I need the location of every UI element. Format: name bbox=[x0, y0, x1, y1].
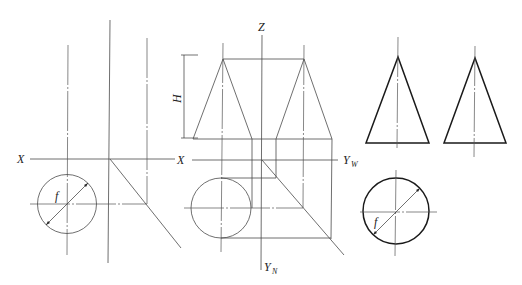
right-result: f bbox=[360, 37, 506, 257]
side-centerline bbox=[303, 45, 304, 208]
label-f-right: f bbox=[374, 215, 379, 229]
projection-line-side-right bbox=[331, 139, 332, 239]
middle-three-view: H Z X Y W Y N bbox=[170, 20, 359, 276]
label-x-middle: X bbox=[176, 153, 185, 167]
front-result-centerline bbox=[397, 37, 398, 148]
label-yn-sub: N bbox=[271, 267, 278, 276]
side-result-centerline bbox=[474, 46, 475, 157]
label-f-left: f bbox=[55, 189, 60, 203]
label-yw: Y bbox=[343, 153, 351, 167]
label-yw-sub: W bbox=[351, 160, 359, 169]
label-h: H bbox=[170, 93, 184, 104]
left-construction: X f bbox=[16, 20, 181, 263]
diameter-dim-right bbox=[373, 188, 420, 235]
front-centerline bbox=[221, 43, 223, 252]
label-z: Z bbox=[258, 20, 265, 34]
label-x-left: X bbox=[16, 152, 25, 166]
projection-drawing: X f H Z X Y W Y N bbox=[0, 0, 522, 285]
vertical-centerline-left bbox=[67, 45, 68, 255]
miter-line-left bbox=[110, 159, 181, 248]
vertical-axis-left bbox=[108, 20, 110, 263]
z-axis bbox=[261, 35, 262, 270]
label-yn: Y bbox=[264, 260, 272, 274]
